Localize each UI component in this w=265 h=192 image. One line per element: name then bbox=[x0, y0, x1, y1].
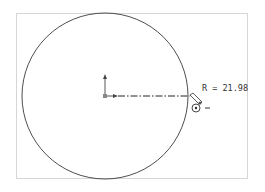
pencil-circle-cursor-icon bbox=[190, 93, 210, 112]
sketch-graphics[interactable] bbox=[0, 0, 265, 192]
origin-axes-icon bbox=[103, 74, 118, 98]
radius-dimension-label[interactable]: R = 21.98 bbox=[202, 83, 248, 93]
